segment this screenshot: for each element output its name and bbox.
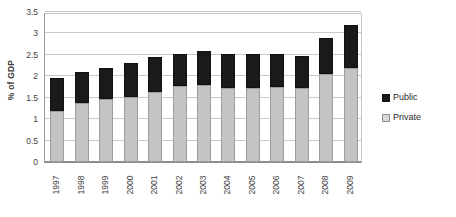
legend-item-label: Public: [393, 93, 418, 102]
x-axis-tick-text: 2000: [125, 176, 135, 195]
y-axis-tick-label: 3: [2, 29, 38, 38]
y-axis-tick-label: 1.5: [2, 94, 38, 103]
y-axis-tick-label: 2.5: [2, 51, 38, 60]
y-axis-tick-label: 2: [2, 72, 38, 81]
x-axis-tick-label-2005: 2005: [245, 164, 259, 216]
x-axis-tick-label-1997: 1997: [49, 164, 63, 216]
y-axis-tick-label: 1: [2, 115, 38, 124]
bar-segment-private: [50, 111, 64, 162]
bar-2009: [344, 25, 358, 162]
y-axis-tick-label: 3.5: [2, 8, 38, 17]
x-axis-tick-label-1998: 1998: [74, 164, 88, 216]
x-axis-tick-label-2004: 2004: [220, 164, 234, 216]
bar-segment-public: [270, 54, 284, 87]
x-axis-tick-text: 2005: [247, 176, 257, 195]
y-axis-tick-label: 0: [2, 158, 38, 167]
bar-2001: [148, 57, 162, 162]
x-axis-tick-text: 2001: [149, 176, 159, 195]
bar-2000: [124, 63, 138, 162]
bar-segment-public: [99, 68, 113, 99]
x-axis-tick-label-2000: 2000: [123, 164, 137, 216]
legend: PublicPrivate: [382, 92, 456, 132]
x-axis-tick-text: 2003: [198, 176, 208, 195]
bar-segment-private: [295, 88, 309, 162]
x-axis-tick-text: 2007: [296, 176, 306, 195]
bar-segment-public: [148, 57, 162, 92]
bar-2004: [221, 54, 235, 162]
x-axis-tick-text: 1999: [100, 176, 110, 195]
bar-segment-private: [221, 88, 235, 162]
x-axis-tick-text: 1997: [51, 176, 61, 195]
bar-segment-public: [50, 78, 64, 110]
bar-2008: [319, 38, 333, 162]
gridline: [45, 11, 361, 12]
x-axis-tick-labels: 1997199819992000200120022003200420052006…: [44, 164, 362, 217]
x-axis-tick-text: 2008: [320, 176, 330, 195]
x-axis-tick-text: 2006: [271, 176, 281, 195]
plot-area: [44, 13, 362, 163]
x-axis-tick-label-2003: 2003: [196, 164, 210, 216]
bar-segment-public: [246, 54, 260, 88]
x-axis-tick-label-2001: 2001: [147, 164, 161, 216]
private-swatch-icon: [382, 114, 390, 122]
bar-segment-private: [173, 86, 187, 162]
bar-series-group: [45, 14, 361, 162]
x-axis-tick-text: 2002: [174, 176, 184, 195]
x-axis-tick-label-2007: 2007: [294, 164, 308, 216]
y-axis-tick-labels: 3.532.521.510.50: [0, 0, 44, 217]
bar-2002: [173, 54, 187, 162]
bar-segment-public: [295, 56, 309, 88]
bar-segment-private: [75, 103, 89, 162]
bar-segment-private: [319, 74, 333, 162]
x-axis-tick-text: 1998: [76, 176, 86, 195]
legend-item-label: Private: [393, 113, 421, 122]
bar-segment-private: [197, 85, 211, 162]
legend-item-public[interactable]: Public: [382, 92, 456, 103]
bar-segment-public: [173, 54, 187, 86]
bar-1997: [50, 78, 64, 162]
bar-segment-private: [270, 87, 284, 162]
x-axis-tick-label-1999: 1999: [98, 164, 112, 216]
legend-item-private[interactable]: Private: [382, 112, 456, 123]
bar-2006: [270, 54, 284, 162]
bar-segment-private: [246, 88, 260, 162]
y-axis-tick-label: 0.5: [2, 137, 38, 146]
x-axis-tick-label-2006: 2006: [269, 164, 283, 216]
bar-segment-public: [124, 63, 138, 96]
bar-2003: [197, 51, 211, 162]
bar-1999: [99, 68, 113, 162]
bar-segment-public: [319, 38, 333, 74]
x-axis-tick-label-2008: 2008: [318, 164, 332, 216]
bar-segment-public: [221, 54, 235, 88]
x-axis-tick-label-2002: 2002: [172, 164, 186, 216]
bar-1998: [75, 72, 89, 162]
bar-segment-public: [344, 25, 358, 68]
bar-2007: [295, 56, 309, 162]
public-swatch-icon: [382, 94, 390, 102]
x-axis-tick-text: 2004: [222, 176, 232, 195]
bar-2005: [246, 54, 260, 162]
chart-container: % of GDP 3.532.521.510.50 19971998199920…: [0, 0, 456, 217]
x-axis-tick-label-2009: 2009: [343, 164, 357, 216]
bar-segment-private: [124, 97, 138, 162]
bar-segment-private: [344, 68, 358, 162]
bar-segment-private: [99, 99, 113, 162]
x-axis-tick-text: 2009: [345, 176, 355, 195]
bar-segment-public: [75, 72, 89, 103]
bar-segment-public: [197, 51, 211, 85]
bar-segment-private: [148, 92, 162, 162]
